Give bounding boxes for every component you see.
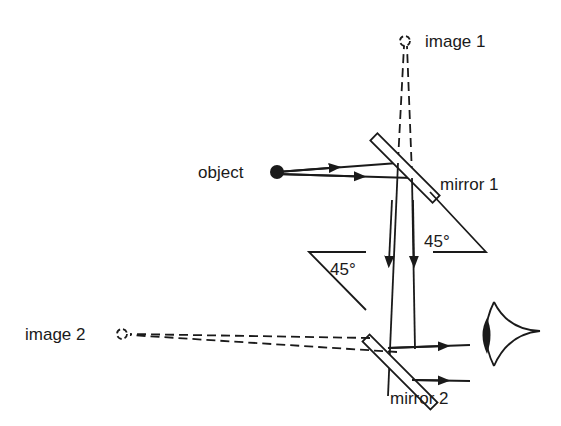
- mirror-1: [370, 133, 439, 202]
- arrow-ray-a: [277, 168, 335, 173]
- virtual-ray-image1-b: [407, 46, 412, 175]
- mirror-1-label: mirror 1: [440, 175, 499, 194]
- image-2-label: image 2: [25, 325, 85, 344]
- arrow-down-a: [389, 200, 392, 262]
- virtual-ray-image1-a: [398, 46, 404, 161]
- image-2-point: [117, 329, 127, 339]
- image-1-label: image 1: [425, 32, 485, 51]
- arrow-down-b: [413, 200, 414, 262]
- mirror-2-label: mirror 2: [390, 389, 449, 408]
- arrow-out-a: [388, 346, 444, 348]
- output-ray-b-hidden: [415, 358, 470, 359]
- angle-2-label: 45°: [330, 260, 356, 279]
- arrow-ray-b: [277, 174, 360, 177]
- arrow-out-b: [412, 380, 444, 381]
- angle-1-label: 45°: [424, 232, 450, 251]
- virtual-ray-image2-b: [130, 335, 397, 352]
- eye-icon: [483, 302, 541, 366]
- image-1-point: [400, 36, 410, 46]
- object-label: object: [198, 163, 244, 182]
- mirror-diagram: image 1 object mirror 1 45° 45° mirror 2…: [0, 0, 561, 426]
